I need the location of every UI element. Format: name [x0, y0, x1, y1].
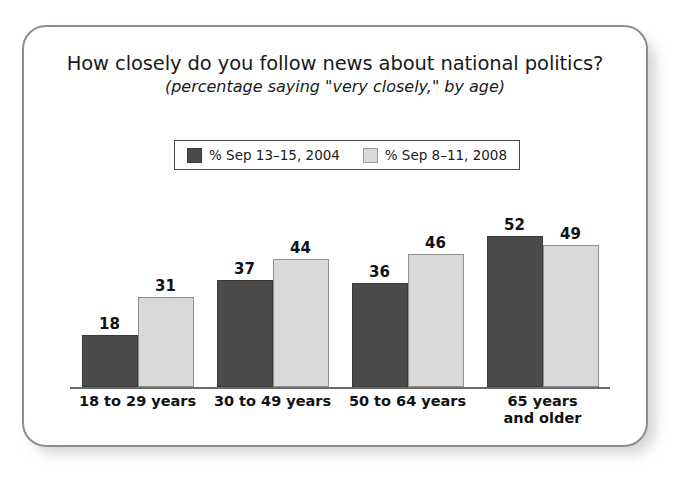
x-axis-line	[70, 387, 610, 389]
category-label-30-to-49: 30 to 49 years	[205, 393, 340, 428]
plot-area: 18 31 37 44 36	[70, 177, 610, 387]
bar-30-to-49-2004	[217, 280, 273, 387]
title-block: How closely do you follow news about nat…	[24, 53, 646, 97]
bar-18-to-29-2004	[82, 335, 138, 387]
bar-wrap-65-and-older-2004: 52	[487, 177, 543, 387]
bar-value-label: 31	[155, 279, 176, 294]
bar-30-to-49-2008	[273, 259, 329, 387]
bar-50-to-64-2004	[352, 283, 408, 387]
legend-swatch-icon-2004	[187, 148, 202, 163]
bar-18-to-29-2008	[138, 297, 194, 387]
legend-entry-2008: % Sep 8–11, 2008	[363, 147, 507, 163]
chart-legend: % Sep 13–15, 2004 % Sep 8–11, 2008	[174, 140, 520, 170]
bar-wrap-50-to-64-2004: 36	[352, 177, 408, 387]
bar-value-label: 37	[234, 262, 255, 277]
legend-label-2004: % Sep 13–15, 2004	[209, 147, 340, 163]
bar-groups: 18 31 37 44 36	[70, 177, 610, 387]
bar-50-to-64-2008	[408, 254, 464, 387]
x-axis-category-labels: 18 to 29 years 30 to 49 years 50 to 64 y…	[70, 393, 610, 428]
chart-title: How closely do you follow news about nat…	[24, 53, 646, 75]
bar-value-label: 52	[504, 218, 525, 233]
bar-wrap-18-to-29-2008: 31	[138, 177, 194, 387]
bar-value-label: 18	[99, 317, 120, 332]
bar-value-label: 44	[290, 241, 311, 256]
bar-wrap-50-to-64-2008: 46	[408, 177, 464, 387]
bar-value-label: 36	[369, 265, 390, 280]
bar-value-label: 49	[560, 227, 581, 242]
bar-value-label: 46	[425, 236, 446, 251]
bar-wrap-65-and-older-2008: 49	[543, 177, 599, 387]
category-label-65-and-older: 65 years and older	[475, 393, 610, 428]
legend-entry-2004: % Sep 13–15, 2004	[187, 147, 340, 163]
legend-swatch-icon-2008	[363, 148, 378, 163]
bar-65-and-older-2004	[487, 236, 543, 387]
bar-wrap-30-to-49-2004: 37	[217, 177, 273, 387]
bar-wrap-30-to-49-2008: 44	[273, 177, 329, 387]
bar-group-30-to-49: 37 44	[205, 177, 340, 387]
chart-subtitle: (percentage saying "very closely," by ag…	[24, 78, 646, 96]
category-label-18-to-29: 18 to 29 years	[70, 393, 205, 428]
bar-wrap-18-to-29-2004: 18	[82, 177, 138, 387]
chart-card: How closely do you follow news about nat…	[22, 25, 648, 447]
bar-group-50-to-64: 36 46	[340, 177, 475, 387]
bar-group-65-and-older: 52 49	[475, 177, 610, 387]
bar-65-and-older-2008	[543, 245, 599, 387]
legend-label-2008: % Sep 8–11, 2008	[385, 147, 507, 163]
category-label-50-to-64: 50 to 64 years	[340, 393, 475, 428]
bar-group-18-to-29: 18 31	[70, 177, 205, 387]
